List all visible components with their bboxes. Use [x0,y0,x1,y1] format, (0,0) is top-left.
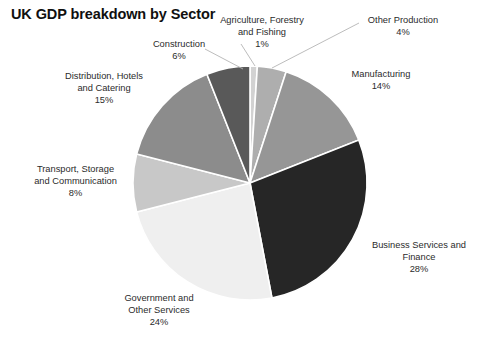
slice-label-distribution-hotels-and-catering: Distribution, Hotels and Catering 15% [50,70,158,107]
slice-label-value: 15% [50,94,158,106]
slice-label-value: 4% [355,26,451,38]
slice-label-name: Manufacturing [333,68,429,80]
slice-label-value: 8% [19,187,132,199]
slice-label-manufacturing: Manufacturing 14% [333,68,429,92]
slice-label-name: Government and [108,292,210,304]
slice-label-value: 24% [108,316,210,328]
slice-label-name: Transport, Storage [19,163,132,175]
slice-label-name2: Other Services [108,304,210,316]
slice-label-name: Other Production [355,14,451,26]
slice-label-name: Construction [134,38,224,50]
slice-label-value: 28% [364,263,474,275]
slice-label-name2: Finance [364,251,474,263]
chart-page: UK GDP breakdown by Sector Agriculture, … [0,0,483,342]
slice-label-government-and-other-services: Government and Other Services 24% [108,292,210,329]
slice-label-name: Agriculture, Forestry [210,14,314,26]
pie-slices [133,66,367,300]
slice-label-construction: Construction 6% [134,38,224,62]
slice-label-agriculture-forestry-and-fishing: Agriculture, Forestry and Fishing 1% [210,14,314,51]
slice-label-name2: and Catering [50,82,158,94]
slice-label-name2: and Communication [19,175,132,187]
slice-label-value: 1% [210,38,314,50]
slice-label-name2: and Fishing [210,26,314,38]
slice-label-name: Distribution, Hotels [50,70,158,82]
slice-label-value: 14% [333,80,429,92]
slice-label-value: 6% [134,50,224,62]
slice-label-other-production: Other Production 4% [355,14,451,38]
slice-label-transport-storage-and-communication: Transport, Storage and Communication 8% [19,163,132,200]
slice-label-name: Business Services and [364,239,474,251]
slice-label-business-services-and-finance: Business Services and Finance 28% [364,239,474,276]
